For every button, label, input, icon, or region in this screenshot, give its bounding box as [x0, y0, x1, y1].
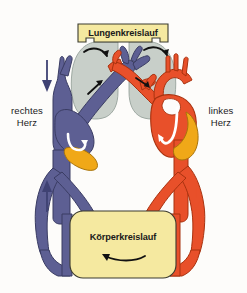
koerperkreislauf-box-shape: [70, 211, 176, 278]
koerperkreislauf-box[interactable]: Körperkreislauf: [70, 211, 176, 278]
diagram-canvas: Lungenkreislauf Körperkreislauf: [0, 0, 247, 293]
label-left-heart: linkes Herz: [198, 105, 244, 128]
aorta-branch-2: [174, 54, 178, 71]
lungenkreislauf-box[interactable]: Lungenkreislauf: [78, 24, 168, 42]
koerperkreislauf-box-label: Körperkreislauf: [90, 232, 157, 242]
lungenkreislauf-box-label: Lungenkreislauf: [88, 28, 159, 38]
arrow-venous-down-icon: [42, 80, 52, 92]
label-right-heart: rechtes Herz: [3, 105, 51, 128]
circulation-diagram: Lungenkreislauf Körperkreislauf rechtes …: [0, 0, 247, 293]
aorta-branch-1: [166, 56, 170, 72]
